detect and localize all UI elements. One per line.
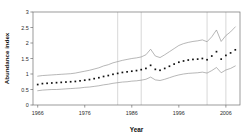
- index-point-marker: [211, 55, 213, 57]
- data-series: [37, 27, 236, 91]
- index-point-marker: [187, 59, 189, 61]
- chart-plot-area: 19661976198619962006 00.511.522.53 Year …: [0, 0, 250, 137]
- index-point-marker: [103, 76, 105, 78]
- index-point-marker: [70, 81, 72, 83]
- index-point-marker: [65, 81, 67, 83]
- index-point-marker: [192, 59, 194, 61]
- y-tick-label: 1: [26, 71, 29, 77]
- index-point-marker: [197, 58, 199, 60]
- y-axis-tick-labels: 00.511.522.53: [21, 9, 29, 108]
- index-point-marker: [206, 59, 208, 61]
- index-point-marker: [164, 68, 166, 70]
- index-point-marker: [112, 73, 114, 75]
- index-point-marker: [89, 79, 91, 81]
- index-point-marker: [79, 80, 81, 82]
- index-point-marker: [234, 49, 236, 51]
- index-point-marker: [154, 69, 156, 71]
- abundance-index-chart: 19661976198619962006 00.511.522.53 Year …: [0, 0, 250, 137]
- index-point-marker: [220, 58, 222, 60]
- index-point-marker: [173, 63, 175, 65]
- index-point-marker: [150, 64, 152, 66]
- index-point-marker: [122, 72, 124, 74]
- index-point-marker: [74, 81, 76, 83]
- index-point-marker: [42, 83, 44, 85]
- index-point-marker: [93, 78, 95, 80]
- x-tick-label: 1996: [173, 110, 185, 116]
- index-point-marker: [46, 82, 48, 84]
- index-point-marker: [202, 58, 204, 60]
- y-tick-label: 0: [26, 102, 29, 108]
- index-point-marker: [225, 55, 227, 57]
- x-tick-label: 1976: [79, 110, 91, 116]
- index-point-marker: [56, 82, 58, 84]
- index-point-marker: [145, 68, 147, 70]
- index-point-marker: [169, 65, 171, 67]
- y-axis-ticks: [30, 12, 33, 105]
- x-axis-ticks: [38, 105, 226, 108]
- y-tick-label: 1.5: [21, 56, 29, 62]
- index-point-marker: [60, 82, 62, 84]
- x-tick-label: 1966: [32, 110, 44, 116]
- index-point-marker: [216, 51, 218, 53]
- y-tick-label: 0.5: [21, 87, 29, 93]
- index-point-marker: [159, 69, 161, 71]
- y-tick-label: 3: [26, 9, 29, 15]
- index-point-marker: [131, 70, 133, 72]
- x-tick-label: 2006: [220, 110, 232, 116]
- y-axis-title: Abundance index: [3, 32, 10, 84]
- index-point-marker: [107, 75, 109, 77]
- index-point-marker: [230, 52, 232, 54]
- x-tick-label: 1986: [126, 110, 138, 116]
- plot-frame: [33, 12, 240, 105]
- y-tick-label: 2.5: [21, 25, 29, 31]
- confidence-limit-line: [38, 66, 236, 91]
- index-point-marker: [84, 79, 86, 81]
- index-point-marker: [178, 61, 180, 63]
- index-point-marker: [51, 82, 53, 84]
- index-point-marker: [183, 60, 185, 62]
- index-point-marker: [98, 77, 100, 79]
- confidence-limit-line: [38, 27, 236, 76]
- x-axis-title: Year: [130, 126, 144, 133]
- y-tick-label: 2: [26, 40, 29, 46]
- index-point-marker: [126, 71, 128, 73]
- index-point-marker: [37, 84, 39, 86]
- index-point-marker: [136, 70, 138, 72]
- index-point-marker: [117, 73, 119, 75]
- x-axis-tick-labels: 19661976198619962006: [32, 110, 232, 116]
- index-point-marker: [140, 69, 142, 71]
